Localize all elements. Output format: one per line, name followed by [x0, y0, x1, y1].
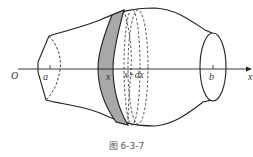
label-a: a [43, 72, 48, 82]
figure-caption: 图 6-3-7 [0, 139, 253, 152]
origin-label: O [11, 71, 18, 81]
label-b: b [209, 72, 214, 82]
left-cap-dashed [46, 36, 61, 100]
label-x-plus-dx: x+dx [124, 71, 144, 81]
label-x: x [106, 72, 110, 82]
shaded-slice [98, 10, 128, 125]
section-ellipse-front [124, 9, 140, 125]
solid-outline [38, 8, 212, 126]
axis-label-x: x [248, 72, 252, 82]
